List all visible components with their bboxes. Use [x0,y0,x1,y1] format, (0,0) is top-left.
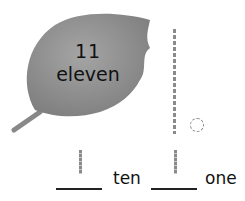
tens-label: ten [113,168,141,188]
ten-rod-outline [173,29,176,134]
ones-written-mark [174,150,177,174]
ones-label: one [205,168,237,188]
leaf-word: eleven [38,62,138,86]
leaf-label: 11 eleven [38,40,138,86]
tens-written-mark [79,150,82,174]
leaf-number: 11 [38,40,138,62]
one-cube-outline [190,118,204,132]
ones-answer-blank[interactable] [151,188,197,190]
tens-answer-blank[interactable] [56,188,102,190]
